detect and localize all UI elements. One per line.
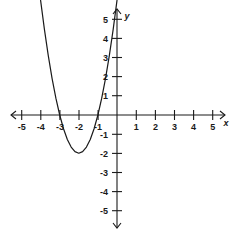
x-tick-label: 5 xyxy=(210,122,215,132)
x-tick-label: 1 xyxy=(134,122,139,132)
graph-figure: -5 -4 -3 -2 -1 1 2 3 4 5 5 4 3 2 1 -1 -2… xyxy=(0,0,236,236)
x-tick-label: -2 xyxy=(75,122,83,132)
y-tick-label: -2 xyxy=(100,149,108,159)
y-tick-label: 1 xyxy=(103,91,108,101)
x-tick-label: -5 xyxy=(18,122,26,132)
y-tick-label: -1 xyxy=(100,130,108,140)
x-tick-label: 2 xyxy=(153,122,158,132)
y-tick-label: -4 xyxy=(100,187,108,197)
y-tick-label: 4 xyxy=(103,34,108,44)
x-axis-label: x xyxy=(222,118,229,128)
y-tick-label: -3 xyxy=(100,168,108,178)
x-tick-label: 4 xyxy=(191,122,196,132)
y-tick-label: -5 xyxy=(100,206,108,216)
x-axis xyxy=(11,111,225,119)
coordinate-plane: -5 -4 -3 -2 -1 1 2 3 4 5 5 4 3 2 1 -1 -2… xyxy=(0,0,236,236)
x-tick-label: -4 xyxy=(37,122,45,132)
y-axis-label: y xyxy=(123,11,130,21)
y-tick-label: 5 xyxy=(103,15,108,25)
y-axis xyxy=(113,9,121,228)
y-tick-label: 3 xyxy=(103,53,108,63)
x-tick-label: 3 xyxy=(172,122,177,132)
